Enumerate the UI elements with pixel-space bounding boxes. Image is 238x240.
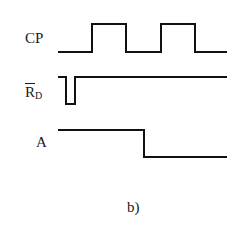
figure-caption: b) [127,199,140,216]
signal-label-rd-sub: D [35,90,42,101]
waveform-a [58,130,227,157]
waveform-cp [58,24,227,52]
signal-label-rd-bar: RD [25,85,42,101]
signal-label-a: A [36,135,47,150]
signal-label-cp: CP [25,31,43,46]
waveform-rd-bar [58,77,227,104]
signal-label-rd-main: R [25,84,35,100]
